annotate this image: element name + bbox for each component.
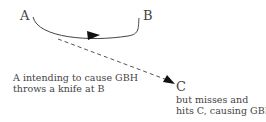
note-a-intent-line1: A intending to cause GBH	[13, 72, 138, 83]
node-a-label: A	[20, 9, 29, 22]
node-c-label: C	[176, 80, 186, 93]
node-b-label: B	[143, 9, 153, 22]
note-a-intent-line2: throws a knife at B	[13, 83, 104, 94]
edge-a-to-b	[33, 17, 139, 39]
note-c-outcome-line1: but misses and	[176, 94, 248, 105]
note-c-outcome-line2: hits C, causing GBH	[176, 105, 266, 116]
arrowhead-a-to-c-icon	[163, 75, 175, 84]
